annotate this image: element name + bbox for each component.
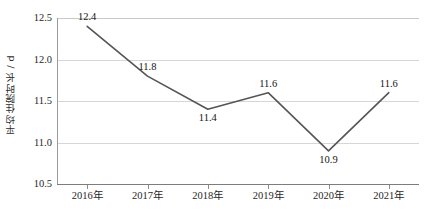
data-point-label-2020年: 10.9 (319, 155, 337, 166)
data-point-label-2019年: 11.6 (259, 79, 277, 90)
data-point-label-2017年: 11.8 (139, 62, 157, 73)
line-chart: 平均住院时长 / d 12.512.011.511.010.5 2016年201… (0, 0, 433, 220)
data-point-label-2016年: 12.4 (78, 12, 96, 23)
series-line-平均住院时长 (87, 26, 389, 151)
data-point-label-2021年: 11.6 (380, 79, 398, 90)
series-line-group (0, 0, 433, 220)
data-point-label-2018年: 11.4 (199, 113, 217, 124)
